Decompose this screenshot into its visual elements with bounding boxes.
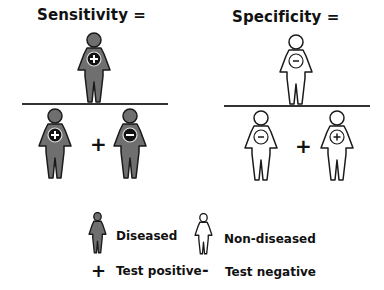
- legend-negative-label: Test negative: [225, 265, 316, 279]
- specificity-fraction-line: [224, 105, 370, 107]
- sensitivity-plus-operator: +: [90, 134, 107, 154]
- legend-positive-symbol: +: [91, 262, 106, 280]
- specificity-denominator-figure-negative: [243, 110, 279, 182]
- legend-non-diseased-label: Non-diseased: [224, 232, 316, 246]
- legend-non-diseased-icon: [194, 213, 213, 255]
- sensitivity-numerator-figure: [76, 32, 112, 104]
- sensitivity-denominator-figure-negative: [112, 108, 148, 180]
- legend-diseased-icon: [88, 212, 107, 254]
- sensitivity-denominator-figure-positive: [37, 108, 73, 180]
- specificity-numerator-figure: [278, 34, 314, 106]
- legend-diseased-label: Diseased: [116, 229, 177, 243]
- specificity-title: Specificity =: [232, 8, 340, 26]
- specificity-denominator-figure-positive: [319, 110, 355, 182]
- legend-positive-label: Test positive: [116, 264, 202, 278]
- sensitivity-title: Sensitivity =: [37, 6, 146, 24]
- sensitivity-fraction-line: [22, 103, 168, 105]
- legend-negative-symbol: -: [202, 262, 209, 278]
- specificity-plus-operator: +: [295, 136, 312, 156]
